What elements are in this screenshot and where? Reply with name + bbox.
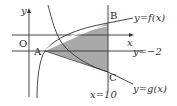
point-c-label: C xyxy=(109,72,117,83)
graph-diagram: y O A B C x y=f(x) y=−2 y=g(x) x=10 xyxy=(0,0,177,106)
shaded-triangle-abc xyxy=(45,23,108,72)
line-y-minus-2-label: y=−2 xyxy=(132,46,162,57)
line-x-10-label: x=10 xyxy=(90,89,117,100)
curve-g-label: y=g(x) xyxy=(132,83,167,94)
origin-label: O xyxy=(19,38,27,49)
point-a-label: A xyxy=(33,46,42,57)
y-axis-arrow-icon xyxy=(27,8,31,13)
y-axis-label: y xyxy=(20,5,27,16)
point-b-label: B xyxy=(110,10,117,21)
curve-f-label: y=f(x) xyxy=(133,12,165,23)
